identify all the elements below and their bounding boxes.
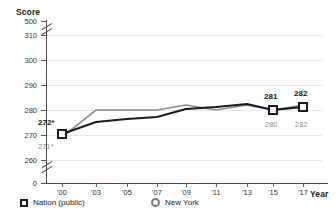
square-marker-icon [20, 199, 28, 207]
series-plot-area [0, 0, 336, 214]
label-newyork-2017: 282 [295, 120, 308, 129]
label-newyork-2000: 271* [38, 142, 53, 151]
chart-figure: Score Year 500 310 300 290 280 270 260 0… [0, 0, 336, 214]
circle-marker-icon [151, 198, 160, 207]
data-point-nation-2017 [299, 103, 307, 111]
data-point-nation-2015 [269, 106, 277, 114]
label-nation-2017: 282 [294, 89, 307, 98]
label-nation-2015: 281 [264, 92, 277, 101]
legend-item-new-york[interactable]: New York [151, 198, 199, 207]
legend-label-new-york: New York [165, 198, 199, 207]
line-series-nation [62, 104, 303, 134]
label-newyork-2015: 280 [265, 120, 278, 129]
label-nation-2000: 272* [38, 118, 54, 127]
chart-legend: Nation (public) New York [20, 198, 320, 212]
legend-label-nation: Nation (public) [33, 198, 85, 207]
data-point-nation-2000 [58, 130, 66, 138]
legend-item-nation[interactable]: Nation (public) [20, 198, 85, 207]
